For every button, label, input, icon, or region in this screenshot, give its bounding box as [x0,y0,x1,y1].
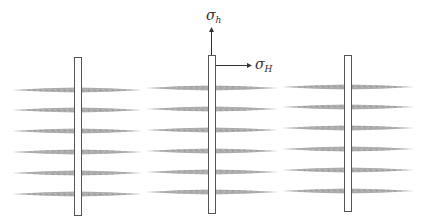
wellbore [345,56,352,212]
sigma-h-label: σh [206,8,221,25]
sigma-H-label: σH [255,57,272,74]
wellbore [209,56,216,214]
arrow-right-icon [247,63,252,68]
arrow-up-icon [209,27,214,32]
sigma-h-subscript: h [216,15,222,25]
sigma-h-symbol: σ [206,7,216,23]
fracture-diagram [0,0,425,220]
wellbore [75,58,82,216]
sigma-H-symbol: σ [255,56,265,72]
sigma-H-subscript: H [265,64,273,74]
